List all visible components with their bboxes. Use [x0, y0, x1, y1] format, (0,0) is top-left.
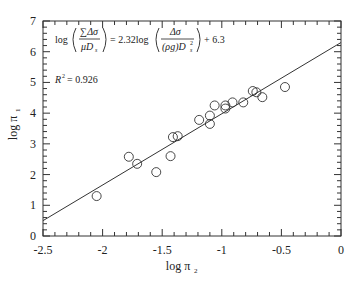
y-axis-title: log π 1 [6, 108, 22, 140]
x-tick-label: -2 [98, 243, 108, 257]
data-point [92, 192, 101, 201]
x-tick-label: 0 [338, 243, 344, 257]
r2-label: R [54, 74, 61, 85]
y-tick-label: 0 [30, 229, 36, 243]
data-point [258, 93, 267, 102]
data-point [205, 111, 214, 120]
r2-sup: 2 [62, 73, 65, 79]
data-point [228, 98, 237, 107]
y-tick-label: 3 [30, 137, 36, 151]
data-point [210, 101, 219, 110]
data-point [195, 115, 204, 124]
eq-log: log [55, 34, 68, 45]
eq-denominator2-sub: s [190, 47, 193, 53]
eq-paren-left [73, 28, 76, 52]
eq-denominator-sub: s [95, 47, 98, 53]
eq-paren-right [103, 28, 106, 52]
data-points [92, 83, 289, 201]
eq-denominator2: (ρg)D [162, 41, 186, 53]
equation-annotation: log ∑Δσ μD s = 2.32log Δσ (ρg)D 2 s + 6.… [54, 26, 225, 85]
y-tick-label: 5 [30, 75, 36, 89]
eq-denominator2-sup: 2 [190, 40, 193, 46]
y-tick-label: 1 [30, 198, 36, 212]
scatter-chart: -2.5-2-1.5-1-0.5001234567 log ∑Δσ μD s =… [0, 0, 357, 286]
x-tick-label: -1 [217, 243, 227, 257]
y-axis-title-text: log π [6, 116, 20, 140]
eq-paren-left2 [156, 28, 159, 52]
data-point [166, 152, 175, 161]
y-tick-label: 6 [30, 45, 36, 59]
y-tick-label: 4 [30, 106, 36, 120]
tick-labels: -2.5-2-1.5-1-0.5001234567 [30, 14, 344, 257]
x-axis-title-sub: 2 [194, 267, 198, 275]
data-point [124, 152, 133, 161]
eq-equals: = 2.32log [110, 34, 148, 45]
y-tick-label: 7 [30, 14, 36, 28]
eq-paren-right2 [197, 28, 200, 52]
x-axis-title: log π 2 [166, 259, 198, 275]
data-point [152, 168, 161, 177]
x-tick-label: -2.5 [34, 243, 53, 257]
x-tick-label: -0.5 [272, 243, 291, 257]
y-tick-label: 2 [30, 168, 36, 182]
fit-line [43, 43, 341, 221]
x-axis-title-text: log π [166, 259, 190, 273]
y-axis-title-sub: 1 [14, 108, 22, 112]
r2-value: = 0.926 [67, 74, 98, 85]
axis-ticks [43, 21, 341, 236]
data-point [280, 83, 289, 92]
x-tick-label: -1.5 [153, 243, 172, 257]
eq-denominator: μD [80, 41, 94, 52]
eq-numerator2: Δσ [169, 26, 182, 37]
plot-frame [43, 21, 341, 236]
eq-numerator: ∑Δσ [80, 26, 99, 37]
eq-constant: + 6.3 [204, 34, 225, 45]
